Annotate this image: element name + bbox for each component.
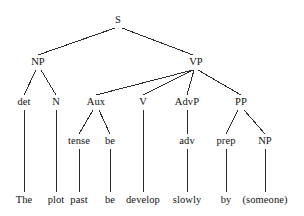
tree-edges-layer [0,0,304,216]
tree-leaf-by: by [221,195,232,206]
tree-leaf-past: past [70,195,87,206]
syntax-tree-diagram: SNPVPdetNAuxVAdvPPPtensebeadvprepNP Thep… [0,0,304,216]
tree-edge-PP-prep [226,110,238,134]
tree-node-prep: prep [216,136,235,147]
tree-edge-PP-NP2 [244,110,265,134]
tree-node-be: be [105,136,115,147]
tree-edge-Aux-tense [79,110,93,134]
tree-node-det: det [17,97,30,108]
tree-edge-VP-V [143,70,193,95]
tree-leaf-someone: (someone) [242,195,287,206]
tree-node-aux: Aux [87,97,105,108]
tree-edge-VP-AdvP [187,70,194,95]
tree-node-advp: AdvP [175,97,199,108]
tree-leaf-slowly: slowly [173,195,202,206]
tree-edge-NP1-N [41,70,56,95]
tree-leaf-develop: develop [126,195,160,206]
tree-node-pp: PP [235,97,247,108]
tree-leaf-plot: plot [48,195,65,206]
tree-node-v: V [139,97,147,108]
tree-node-np2: NP [258,136,272,147]
tree-leaf-the: The [16,195,33,206]
tree-edge-VP-Aux [96,70,193,95]
tree-node-tense: tense [68,136,90,147]
tree-edge-NP1-det [24,70,36,95]
tree-edge-VP-PP [198,70,241,95]
tree-node-adv: adv [179,136,194,147]
tree-node-n: N [52,97,60,108]
tree-leaf-be: be [105,195,115,206]
tree-edge-Aux-be [99,110,110,134]
tree-node-s: S [115,15,121,26]
tree-edge-S-NP1 [38,28,115,55]
tree-edge-S-VP [122,28,193,55]
tree-node-vp: VP [189,57,203,68]
tree-node-np1: NP [31,57,45,68]
